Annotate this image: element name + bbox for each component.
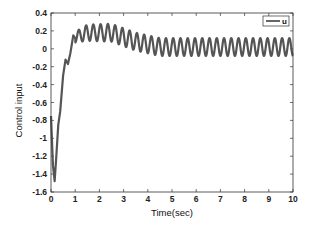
x-tick-label: 5 <box>170 194 175 204</box>
y-axis-label: Control input <box>13 83 24 137</box>
y-tick-label: -0.6 <box>32 98 47 108</box>
x-tick-label: 8 <box>242 194 247 204</box>
legend-label: u <box>282 17 287 26</box>
line-chart: 0.40.20-0.2-0.4-0.6-0.8-1-1.2-1.4-1.6 01… <box>0 0 311 231</box>
x-tick-label: 10 <box>288 194 298 204</box>
x-tick-label: 1 <box>73 194 78 204</box>
y-tick-label: 0.4 <box>35 8 47 18</box>
y-tick-label: 0.2 <box>35 26 47 36</box>
x-tick-label: 3 <box>121 194 126 204</box>
y-tick-label: 0 <box>42 44 47 54</box>
y-tick-label: -1.2 <box>32 151 47 161</box>
legend: u <box>263 16 289 26</box>
x-tick-label: 2 <box>97 194 102 204</box>
x-tick-label: 9 <box>266 194 271 204</box>
y-tick-label: -1 <box>39 133 47 143</box>
x-tick-label: 0 <box>49 194 54 204</box>
y-tick-label: -0.2 <box>32 62 47 72</box>
y-tick-label: -0.4 <box>32 80 47 90</box>
x-tick-label: 7 <box>218 194 223 204</box>
y-tick-label: -1.6 <box>32 187 47 197</box>
y-tick-label: -1.4 <box>32 169 47 179</box>
x-axis-label: Time(sec) <box>151 207 193 218</box>
y-tick-label: -0.8 <box>32 115 47 125</box>
x-tick-label: 6 <box>194 194 199 204</box>
x-tick-label: 4 <box>145 194 150 204</box>
